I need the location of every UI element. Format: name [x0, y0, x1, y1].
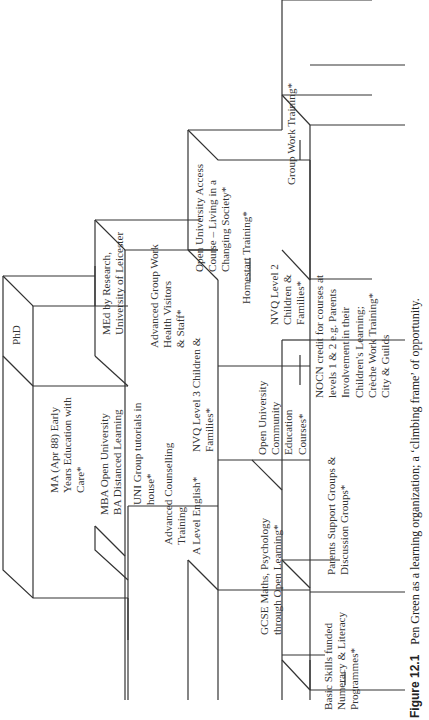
figure-caption: Figure 12.1Pen Green as a learning organ…	[408, 298, 423, 718]
label-a-level: A Level English*	[190, 477, 203, 555]
label-nocn: NOCN credit for courses at levels 1 & 2 …	[313, 275, 392, 398]
figure-caption-text: Pen Green as a learning organization; a …	[408, 298, 422, 644]
label-uni: UNI Group tutorials in house*	[131, 403, 157, 505]
label-homestart: Homestart Training*	[240, 211, 253, 304]
label-adv-group-work: Advanced Group Work Health Visitors & St…	[148, 244, 188, 348]
label-nvq2: NVQ Level 2 Children & Families*	[268, 264, 308, 325]
label-group-work: Group Work Training*	[285, 83, 298, 185]
label-adv-counselling: Advanced Counselling Training	[162, 443, 188, 545]
label-ou-access: Open University Access Course – Living i…	[193, 164, 233, 272]
label-parents-support: Parents Support Groups & Discussion Grou…	[325, 457, 351, 575]
label-gcse: GCSE Maths, Psychology through Open Lear…	[258, 518, 284, 635]
label-nvq3: NVQ Level 3 Children & Families*	[190, 338, 216, 452]
label-med: MEd by Research, University of Leicester	[100, 232, 126, 335]
figure-number: Figure 12.1	[408, 655, 422, 718]
label-basic-skills: Basic Skills funded Numeracy & Literacy …	[322, 612, 362, 710]
label-ma: MA (Apr 88) Early Years Education with C…	[48, 397, 88, 493]
label-phd: PhD	[10, 325, 23, 345]
label-mba: MBA Open University BA Distanced Learnin…	[98, 409, 124, 515]
label-ou-community: Open University Community Education Cour…	[256, 381, 309, 455]
